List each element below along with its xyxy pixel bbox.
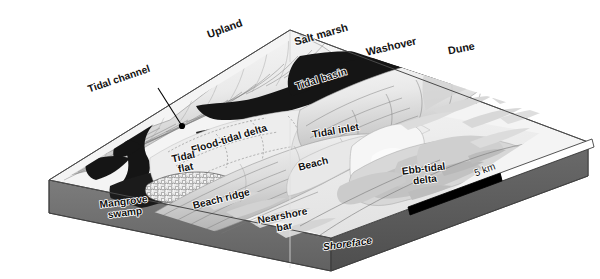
coastal-block-diagram-figure: UplandSalt marshWashoverDuneTidal channe… [0, 0, 600, 279]
block-diagram-svg: UplandSalt marshWashoverDuneTidal channe… [0, 0, 600, 279]
